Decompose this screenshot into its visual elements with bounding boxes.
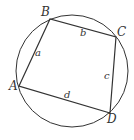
vertex-label-a: A [8, 79, 18, 93]
vertex-label-d: D [106, 112, 117, 126]
vertex-label-b: B [40, 5, 50, 19]
vertex-label-c: C [117, 25, 126, 39]
circumcircle [16, 15, 128, 127]
side-label-c: c [104, 70, 110, 81]
side-label-a: a [35, 47, 41, 58]
side-label-d: d [64, 89, 70, 100]
side-label-b: b [80, 27, 86, 38]
cyclic-quadrilateral-diagram: A B C D a b c d [0, 0, 134, 140]
